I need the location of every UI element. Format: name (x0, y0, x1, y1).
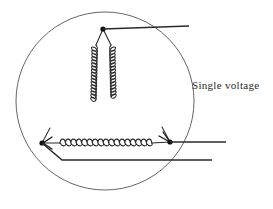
right-winding-coil (90, 29, 170, 142)
stator-circle-outline (16, 12, 194, 190)
delta-winding-diagram: Single voltage (0, 0, 273, 209)
left-winding-coil (42, 29, 119, 143)
lead-wire-top (103, 26, 189, 29)
bottom-winding-coil (42, 139, 170, 146)
diagram-canvas (0, 0, 273, 209)
single-voltage-label: Single voltage (192, 79, 259, 91)
